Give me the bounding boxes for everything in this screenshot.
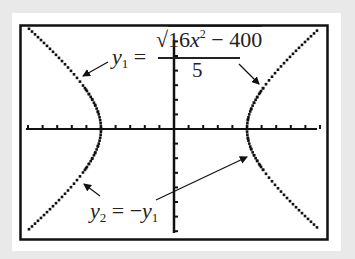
arrow-y2-right	[156, 157, 247, 200]
arrow-y1-right	[239, 64, 259, 84]
num-coefficient: 16	[168, 27, 190, 52]
y2-var: y	[90, 198, 100, 223]
y1-formula-denominator: 5	[192, 58, 203, 83]
y1-equals: =	[134, 44, 146, 69]
num-rest: − 400	[206, 27, 262, 52]
y1-formula-numerator: √16x2 − 400	[156, 27, 262, 53]
num-x: x	[190, 27, 200, 52]
y2-rhs-sub: 1	[152, 210, 159, 225]
arrow-y2-left	[84, 184, 100, 196]
y2-rhs-var: y	[142, 198, 152, 223]
y2-equals-neg: = −	[106, 198, 142, 223]
radical-sign: √	[156, 27, 168, 52]
y1-var: y	[112, 44, 122, 69]
y2-label: y2 = −y1	[90, 198, 158, 226]
y1-sub: 1	[122, 56, 129, 71]
y1-label: y1 =	[112, 44, 146, 72]
arrow-y1-left	[83, 62, 108, 76]
